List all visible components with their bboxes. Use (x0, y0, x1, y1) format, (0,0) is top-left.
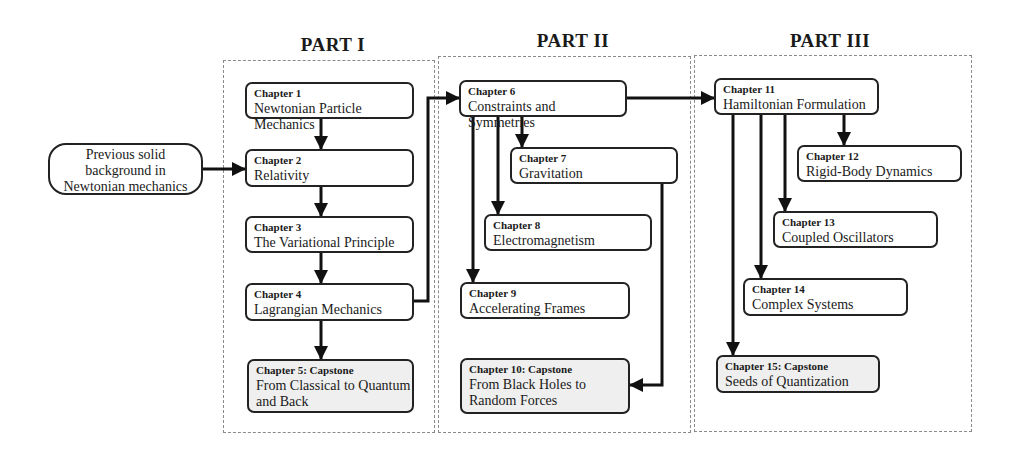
chapter-title: Gravitation (519, 166, 676, 182)
chapter-label: Chapter 1 (254, 87, 412, 100)
chapter-3-node: Chapter 3 The Variational Principle (245, 216, 414, 253)
chapter-title-line-2: and Back (256, 394, 412, 410)
prerequisite-line-1: Previous solid (50, 147, 201, 163)
part-2-title: PART II (513, 30, 633, 52)
chapter-title-line-1: From Black Holes to (469, 377, 628, 393)
chapter-title: Constraints and Symmetries (468, 99, 625, 131)
chapter-label: Chapter 15: Capstone (725, 360, 878, 373)
chapter-title: Complex Systems (752, 297, 906, 313)
chapter-7-node: Chapter 7 Gravitation (510, 147, 678, 184)
chapter-title: Newtonian Particle Mechanics (254, 101, 412, 133)
chapter-2-node: Chapter 2 Relativity (245, 149, 414, 187)
chapter-title: Rigid-Body Dynamics (806, 164, 960, 180)
course-roadmap-diagram: PART I PART II PART III (0, 0, 1019, 454)
chapter-10-capstone-node: Chapter 10: Capstone From Black Holes to… (460, 358, 630, 414)
chapter-label: Chapter 11 (723, 83, 877, 96)
chapter-label: Chapter 5: Capstone (256, 364, 412, 377)
chapter-title: Accelerating Frames (469, 301, 628, 317)
chapter-title: Seeds of Quantization (725, 374, 878, 390)
chapter-label: Chapter 2 (254, 154, 412, 167)
chapter-8-node: Chapter 8 Electromagnetism (484, 214, 652, 251)
chapter-label: Chapter 14 (752, 283, 906, 296)
chapter-4-node: Chapter 4 Lagrangian Mechanics (245, 283, 414, 321)
prerequisite-line-3: Newtonian mechanics (50, 179, 201, 195)
chapter-15-capstone-node: Chapter 15: Capstone Seeds of Quantizati… (716, 355, 880, 393)
chapter-label: Chapter 8 (493, 219, 650, 232)
chapter-label: Chapter 7 (519, 152, 676, 165)
chapter-title: Coupled Oscillators (782, 230, 936, 246)
part-1-title: PART I (273, 34, 393, 56)
chapter-label: Chapter 13 (782, 216, 936, 229)
chapter-title-line-2: Random Forces (469, 393, 628, 409)
prerequisite-line-2: background in (50, 163, 201, 179)
chapter-label: Chapter 6 (468, 85, 625, 98)
chapter-12-node: Chapter 12 Rigid-Body Dynamics (797, 145, 962, 182)
chapter-13-node: Chapter 13 Coupled Oscillators (773, 211, 938, 248)
chapter-1-node: Chapter 1 Newtonian Particle Mechanics (245, 82, 414, 119)
chapter-5-capstone-node: Chapter 5: Capstone From Classical to Qu… (247, 359, 414, 413)
chapter-title: Electromagnetism (493, 233, 650, 249)
chapter-label: Chapter 9 (469, 287, 628, 300)
chapter-label: Chapter 3 (254, 221, 412, 234)
chapter-title-line-1: From Classical to Quantum (256, 378, 412, 394)
chapter-title: Hamiltonian Formulation (723, 97, 877, 113)
chapter-label: Chapter 12 (806, 150, 960, 163)
chapter-title: Relativity (254, 168, 412, 184)
chapter-label: Chapter 4 (254, 288, 412, 301)
chapter-14-node: Chapter 14 Complex Systems (743, 278, 908, 316)
chapter-9-node: Chapter 9 Accelerating Frames (460, 282, 630, 319)
chapter-label: Chapter 10: Capstone (469, 363, 628, 376)
chapter-title: Lagrangian Mechanics (254, 302, 412, 318)
chapter-title: The Variational Principle (254, 235, 412, 251)
prerequisite-node: Previous solid background in Newtonian m… (48, 143, 203, 195)
chapter-6-node: Chapter 6 Constraints and Symmetries (459, 80, 627, 117)
part-3-title: PART III (770, 30, 890, 52)
chapter-11-node: Chapter 11 Hamiltonian Formulation (714, 78, 879, 115)
